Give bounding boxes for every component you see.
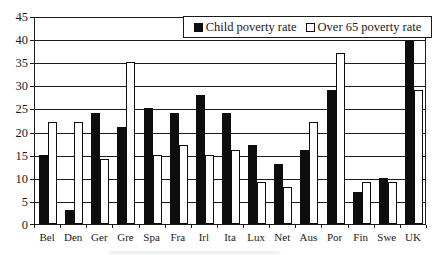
bar-child-poverty-rate-swe (379, 178, 388, 224)
y-axis-label-45: 45 (6, 11, 28, 23)
legend-label-child-poverty: Child poverty rate (206, 20, 297, 35)
y-axis-label-40: 40 (6, 34, 28, 46)
bar-over-65-poverty-rate-net (283, 187, 292, 224)
x-axis-tick-2 (86, 225, 87, 228)
x-axis-tick-0 (34, 225, 35, 228)
bar-over-65-poverty-rate-swe (388, 182, 397, 224)
scan-artifact (110, 251, 280, 254)
gridline-y-30 (35, 86, 425, 87)
bar-over-65-poverty-rate-irl (205, 155, 214, 224)
poverty-rates-bar-chart: Child poverty rate Over 65 poverty rate … (0, 0, 442, 255)
bar-over-65-poverty-rate-gre (126, 62, 135, 224)
legend-label-over65-poverty: Over 65 poverty rate (318, 20, 422, 35)
bar-child-poverty-rate-bel (39, 155, 48, 224)
bar-over-65-poverty-rate-lux (257, 182, 266, 224)
x-axis-tick-9 (269, 225, 270, 228)
bar-over-65-poverty-rate-fra (179, 145, 188, 224)
legend-open-square-icon (306, 23, 315, 32)
y-axis-tick-25 (30, 109, 34, 110)
x-axis-tick-10 (295, 225, 296, 228)
y-axis-tick-20 (30, 133, 34, 134)
y-axis-label-15: 15 (6, 150, 28, 162)
x-axis-tick-14 (400, 225, 401, 228)
y-axis-tick-35 (30, 63, 34, 64)
legend: Child poverty rate Over 65 poverty rate (183, 16, 432, 38)
y-axis-label-20: 20 (6, 127, 28, 139)
x-axis-tick-5 (165, 225, 166, 228)
bar-over-65-poverty-rate-spa (153, 155, 162, 224)
plot-area (34, 17, 426, 225)
x-axis-tick-15 (426, 225, 427, 228)
y-axis-tick-10 (30, 179, 34, 180)
bar-child-poverty-rate-lux (248, 145, 257, 224)
x-axis-label-uk: UK (393, 231, 433, 243)
bar-child-poverty-rate-gre (117, 127, 126, 224)
y-axis-tick-40 (30, 40, 34, 41)
y-axis-label-35: 35 (6, 57, 28, 69)
bar-child-poverty-rate-ita (222, 113, 231, 224)
bar-child-poverty-rate-den (65, 210, 74, 224)
y-axis-tick-15 (30, 156, 34, 157)
bar-over-65-poverty-rate-ita (231, 150, 240, 224)
bar-over-65-poverty-rate-den (74, 122, 83, 224)
bar-over-65-poverty-rate-bel (48, 122, 57, 224)
x-axis-tick-3 (112, 225, 113, 228)
bar-over-65-poverty-rate-aus (309, 122, 318, 224)
bar-child-poverty-rate-fin (353, 192, 362, 224)
y-axis-tick-45 (30, 17, 34, 18)
y-axis-tick-30 (30, 86, 34, 87)
bar-over-65-poverty-rate-fin (362, 182, 371, 224)
x-axis-tick-11 (321, 225, 322, 228)
gridline-y-25 (35, 109, 425, 110)
x-axis-tick-13 (374, 225, 375, 228)
x-axis-tick-7 (217, 225, 218, 228)
x-axis-tick-6 (191, 225, 192, 228)
y-axis-label-0: 0 (6, 219, 28, 231)
bar-child-poverty-rate-ger (91, 113, 100, 224)
bar-over-65-poverty-rate-por (336, 53, 345, 224)
y-axis-label-25: 25 (6, 103, 28, 115)
bar-over-65-poverty-rate-uk (414, 90, 423, 224)
y-axis-label-10: 10 (6, 173, 28, 185)
x-axis-tick-12 (348, 225, 349, 228)
bar-child-poverty-rate-spa (144, 108, 153, 224)
bar-child-poverty-rate-irl (196, 95, 205, 224)
x-axis-tick-1 (60, 225, 61, 228)
bar-child-poverty-rate-aus (300, 150, 309, 224)
bar-child-poverty-rate-uk (405, 41, 414, 224)
gridline-y-35 (35, 63, 425, 64)
x-axis-tick-4 (139, 225, 140, 228)
x-axis-tick-8 (243, 225, 244, 228)
bar-child-poverty-rate-por (327, 90, 336, 224)
legend-entry-over65-poverty: Over 65 poverty rate (306, 20, 422, 35)
bar-over-65-poverty-rate-ger (100, 159, 109, 224)
bar-child-poverty-rate-fra (170, 113, 179, 224)
y-axis-tick-5 (30, 202, 34, 203)
bar-child-poverty-rate-net (274, 164, 283, 224)
legend-filled-square-icon (194, 23, 203, 32)
gridline-y-40 (35, 40, 425, 41)
y-axis-label-5: 5 (6, 196, 28, 208)
y-axis-label-30: 30 (6, 80, 28, 92)
legend-entry-child-poverty: Child poverty rate (194, 20, 297, 35)
